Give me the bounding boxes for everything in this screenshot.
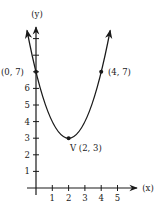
- y-tick-label: 4: [25, 117, 30, 127]
- x-axis-label: (x): [142, 183, 153, 193]
- x-tick-label: 4: [98, 193, 103, 203]
- vertex-point: [67, 136, 71, 140]
- x-tick-label: 3: [82, 193, 87, 203]
- parabola-curve: [27, 30, 110, 138]
- parabola-chart: 1 2 3 4 5 1 2 3 4 5 6 (y) (x) (0, 7) V (…: [0, 0, 157, 213]
- point-right-label: (4, 7): [108, 67, 131, 77]
- y-axis-label: (y): [31, 9, 42, 19]
- point-0-7: [34, 70, 38, 74]
- y-tick-label: 2: [25, 150, 30, 160]
- y-tick-label: 3: [25, 133, 30, 143]
- y-tick-label: 5: [25, 100, 30, 110]
- y-tick-label: 6: [25, 83, 30, 93]
- x-tick-label: 5: [115, 193, 120, 203]
- x-tick-label: 2: [66, 193, 71, 203]
- vertex-label: V (2, 3): [69, 143, 102, 153]
- y-tick-label: 1: [25, 166, 30, 176]
- point-left-label: (0, 7): [1, 67, 24, 77]
- point-4-7: [99, 70, 103, 74]
- x-tick-label: 1: [50, 193, 55, 203]
